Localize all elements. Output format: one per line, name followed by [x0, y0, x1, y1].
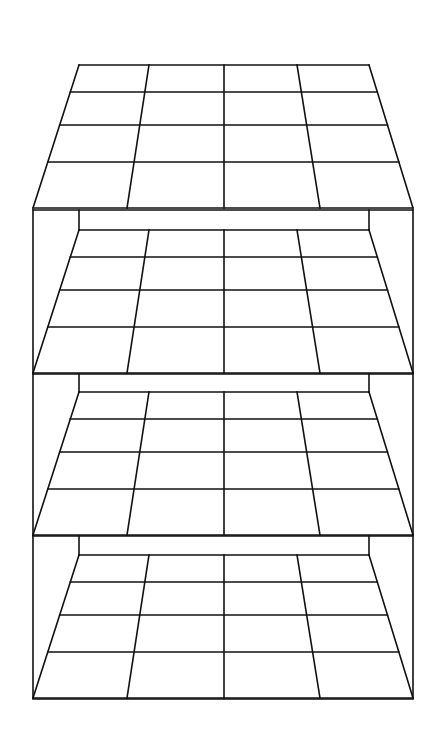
grid-column-line — [127, 230, 149, 373]
grid-column-line — [297, 230, 320, 373]
grid-column-line — [127, 65, 149, 208]
grid-column-line — [369, 392, 413, 535]
grid-column-line — [297, 65, 320, 208]
grid-column-line — [369, 65, 413, 208]
layer-1 — [33, 65, 413, 208]
grid-column-line — [33, 65, 79, 208]
grid-column-line — [369, 555, 413, 698]
stacked-grid-diagram — [0, 0, 436, 731]
grid-column-line — [297, 392, 320, 535]
grid-column-line — [33, 555, 79, 698]
grid-column-line — [297, 555, 320, 698]
layer-3 — [33, 374, 413, 535]
grid-column-line — [33, 230, 79, 373]
layer-2 — [33, 210, 413, 373]
grid-column-line — [369, 230, 413, 373]
grid-column-line — [127, 555, 149, 698]
grid-column-line — [33, 392, 79, 535]
grid-column-line — [127, 392, 149, 535]
layer-4 — [33, 536, 413, 698]
